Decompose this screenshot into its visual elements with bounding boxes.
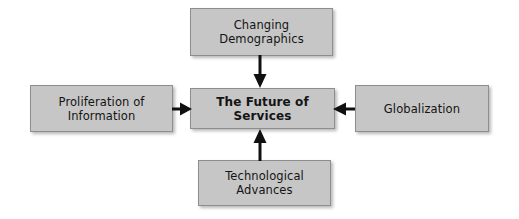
node-changing-demographics[interactable]: Changing Demographics	[190, 8, 333, 56]
arrow-down-icon	[252, 55, 268, 89]
node-globalization[interactable]: Globalization	[355, 85, 489, 132]
node-proliferation-of-information[interactable]: Proliferation of Information	[30, 85, 173, 132]
center-node-future-of-services[interactable]: The Future of Services	[190, 88, 335, 129]
arrow-up-icon	[252, 129, 268, 161]
arrow-right-icon	[172, 101, 192, 117]
node-label: Proliferation of Information	[55, 95, 149, 123]
node-label: Technological Advances	[221, 169, 308, 197]
center-node-label: The Future of Services	[191, 95, 334, 123]
node-label: Globalization	[380, 102, 464, 116]
node-label: Changing Demographics	[215, 18, 308, 46]
node-technological-advances[interactable]: Technological Advances	[198, 160, 331, 206]
diagram-canvas: Changing Demographics Proliferation of I…	[0, 0, 519, 219]
arrow-left-icon	[333, 101, 355, 117]
